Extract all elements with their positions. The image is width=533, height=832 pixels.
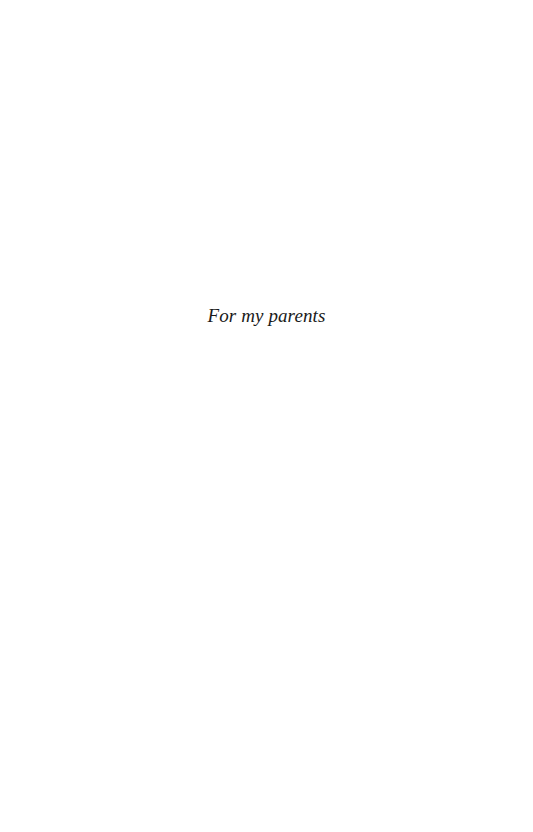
dedication-text: For my parents xyxy=(0,305,533,327)
book-page: For my parents xyxy=(0,0,533,832)
